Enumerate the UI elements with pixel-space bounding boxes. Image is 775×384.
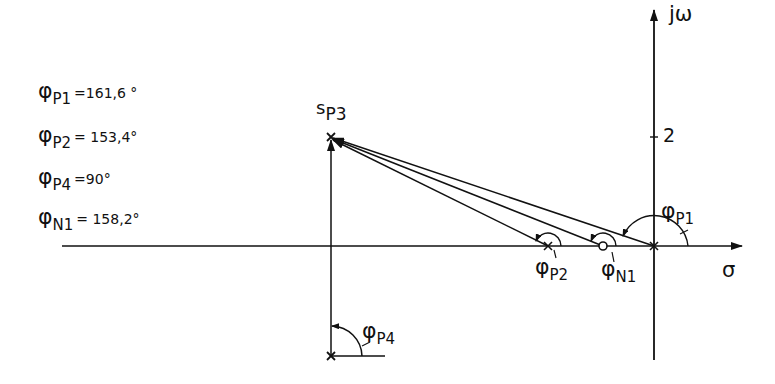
point-label-sp3: sP3 [316,101,346,122]
vector-p2-to-sp3 [333,140,548,246]
angle-label-n1: φN1 [601,256,636,281]
vector-n1-to-sp3 [333,139,603,246]
legend-item-p1: φP1=161,6 ° [38,78,137,103]
legend-item-p2: φP2= 153,4° [38,122,137,147]
angle-label-p1: φP1 [661,198,694,223]
legend-item-n1: φN1= 158,2° [38,204,140,229]
angle-label-p2: φP2 [535,254,568,279]
zero-n1-marker [599,242,607,250]
pole-sp3-marker [327,133,335,141]
imaginary-axis [650,10,658,360]
legend-item-p4: φP4=90° [38,164,111,189]
real-axis-label: σ [722,258,735,282]
angle-label-p4: φP4 [362,318,395,343]
imag-axis-label: jω [669,2,692,26]
vector-p1-to-sp3 [333,138,654,246]
imag-tick-label: 2 [663,124,675,146]
